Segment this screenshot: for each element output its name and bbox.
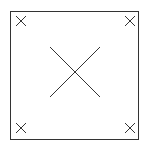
corner-cross-top-right-icon (125, 16, 135, 26)
center-cross-icon (50, 47, 100, 97)
diagram-canvas (0, 0, 151, 150)
corner-cross-bottom-right-icon (125, 123, 135, 133)
corner-cross-bottom-left-icon (16, 123, 26, 133)
square-frame (11, 12, 139, 140)
corner-cross-top-left-icon (16, 16, 26, 26)
